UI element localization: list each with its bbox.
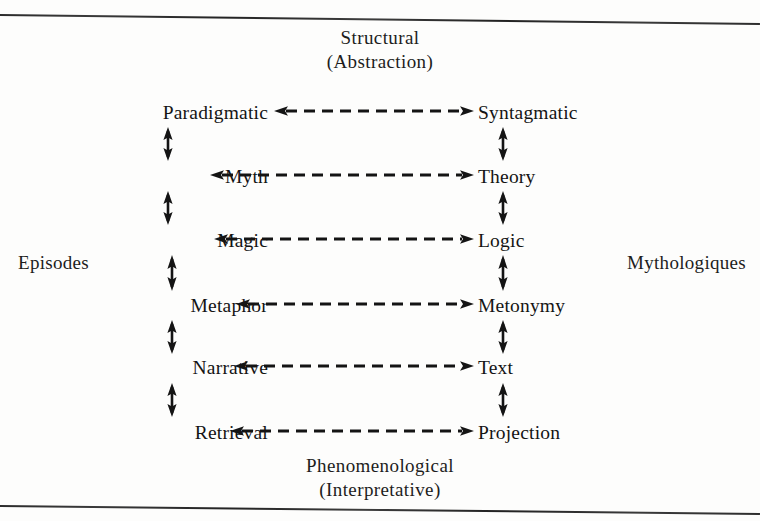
term-right-5: Projection	[478, 423, 560, 443]
top-axis-caption: Structural (Abstraction)	[0, 27, 760, 73]
vertical-arrow-right-1	[497, 191, 509, 225]
vertical-arrow-right-0	[497, 127, 509, 161]
vertical-arrow-right-4	[497, 383, 509, 417]
vertical-arrow-right-3	[497, 320, 509, 354]
diagram-page: Structural (Abstraction) Phenomenologica…	[0, 0, 760, 521]
term-right-4: Text	[478, 358, 513, 378]
term-left-0: Paradigmatic	[163, 103, 268, 123]
bottom-caption-line1: Phenomenological	[306, 455, 454, 476]
vertical-arrow-left-2	[166, 255, 178, 291]
horizontal-arrow-row-5	[230, 425, 474, 437]
vertical-arrow-left-3	[166, 320, 178, 354]
term-right-1: Theory	[478, 167, 536, 187]
top-rule-line	[0, 14, 760, 25]
bottom-axis-caption: Phenomenological (Interpretative)	[0, 455, 760, 501]
horizontal-arrow-row-3	[236, 298, 474, 310]
right-axis-caption: Mythologiques	[627, 252, 746, 274]
horizontal-arrow-row-0	[274, 105, 474, 117]
vertical-arrow-left-1	[162, 191, 174, 225]
horizontal-arrow-row-1	[210, 169, 474, 181]
left-axis-caption: Episodes	[18, 252, 89, 274]
vertical-arrow-left-4	[166, 383, 178, 417]
bottom-rule-line	[0, 505, 760, 515]
term-right-0: Syntagmatic	[478, 103, 578, 123]
horizontal-arrow-row-2	[214, 233, 474, 245]
top-caption-line1: Structural	[341, 27, 420, 48]
top-caption-line2: (Abstraction)	[0, 51, 760, 73]
bottom-caption-line2: (Interpretative)	[0, 479, 760, 501]
vertical-arrow-left-0	[162, 127, 174, 161]
term-right-2: Logic	[478, 231, 524, 251]
horizontal-arrow-row-4	[234, 360, 474, 372]
vertical-arrow-right-2	[497, 255, 509, 291]
term-right-3: Metonymy	[478, 296, 565, 316]
